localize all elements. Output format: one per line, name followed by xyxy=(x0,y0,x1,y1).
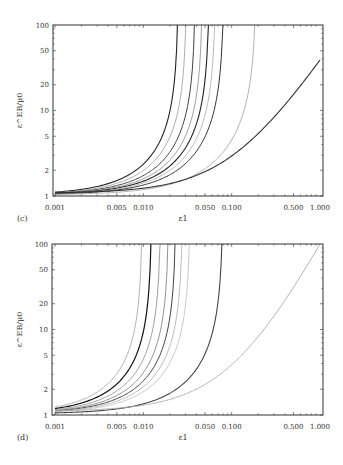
y-tick-label: 20 xyxy=(40,81,49,89)
plot-frame xyxy=(53,25,323,196)
plot-frame xyxy=(52,244,323,415)
figure: 0.0010.0050.0100.0500.1000.5001.00012510… xyxy=(0,0,343,465)
series-curve-7 xyxy=(55,10,224,194)
series-curve-1 xyxy=(55,238,143,407)
y-tick-label: 10 xyxy=(40,107,49,115)
series-curve-2 xyxy=(55,229,152,409)
y-tick-label: 50 xyxy=(40,47,49,55)
x-tick-label: 0.010 xyxy=(133,423,153,431)
series-curve-1 xyxy=(55,10,178,192)
y-tick-label: 100 xyxy=(35,241,48,249)
y-tick-label: 50 xyxy=(39,266,48,274)
y-tick-label: 10 xyxy=(39,326,48,334)
chart-panel-c: 0.0010.0050.0100.0500.1000.5001.00012510… xyxy=(15,10,330,223)
curves xyxy=(55,10,320,194)
x-tick-label: 0.001 xyxy=(45,423,65,431)
series-curve-4 xyxy=(55,10,203,193)
y-tick-label: 100 xyxy=(36,22,49,30)
x-tick-label: 0.500 xyxy=(283,204,303,212)
y-tick-label: 20 xyxy=(39,300,48,308)
y-tick-label: 2 xyxy=(44,386,48,394)
x-tick-label: 1.000 xyxy=(310,423,330,431)
panel-label: (c) xyxy=(17,214,28,223)
series-curve-9 xyxy=(55,244,320,411)
y-axis-label: ε^EB/μ0 xyxy=(15,93,24,129)
series-curve-9 xyxy=(55,60,320,193)
x-tick-label: 0.050 xyxy=(195,423,215,431)
y-tick-label: 1 xyxy=(45,193,49,201)
series-curve-7 xyxy=(55,229,190,412)
x-axis-label: ε1 xyxy=(178,214,187,223)
x-tick-label: 0.050 xyxy=(195,204,215,212)
x-tick-label: 0.005 xyxy=(107,423,127,431)
y-tick-label: 5 xyxy=(44,352,48,360)
y-tick-label: 2 xyxy=(45,167,49,175)
x-tick-label: 1.000 xyxy=(310,204,330,212)
series-curve-5 xyxy=(55,10,209,194)
x-tick-label: 0.500 xyxy=(283,423,303,431)
series-curve-3 xyxy=(55,13,196,193)
series-curve-2 xyxy=(55,10,187,193)
x-tick-label: 0.100 xyxy=(222,423,242,431)
series-curve-6 xyxy=(55,229,183,412)
x-axis-label: ε1 xyxy=(178,433,187,442)
y-tick-label: 1 xyxy=(44,412,48,420)
series-curve-5 xyxy=(55,229,176,411)
curves xyxy=(55,229,320,413)
series-curve-4 xyxy=(55,231,169,411)
x-tick-label: 0.005 xyxy=(107,204,127,212)
y-tick-label: 5 xyxy=(45,133,49,141)
series-curve-6 xyxy=(55,10,216,194)
y-axis-label: ε^EB/μ0 xyxy=(15,312,24,348)
x-tick-label: 0.001 xyxy=(45,204,65,212)
panel-label: (d) xyxy=(17,433,28,442)
x-tick-label: 0.100 xyxy=(222,204,242,212)
chart-panel-d: 0.0010.0050.0100.0500.1000.5001.00012510… xyxy=(15,229,330,442)
x-tick-label: 0.010 xyxy=(133,204,153,212)
